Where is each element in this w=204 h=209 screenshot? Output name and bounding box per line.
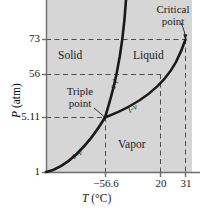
xtick-label-20: 20 <box>147 178 175 190</box>
y-axis-unit: (atm) <box>10 83 22 108</box>
critical-point-label-line1: Critical <box>145 3 201 15</box>
x-axis-unit: (°C) <box>91 192 111 204</box>
y-axis-symbol: P <box>10 111 22 118</box>
ytick-label-73: 73 <box>12 33 40 45</box>
triple-point-label-line2: point <box>52 97 108 109</box>
triple-point-label: Triple point <box>52 85 108 110</box>
ytick-label-56: 56 <box>12 68 40 80</box>
phase-diagram-figure: 73 56 5.11 1 P (atm) −56.6 20 31 T (°C) … <box>0 0 204 209</box>
critical-point-label-line2: point <box>145 15 201 27</box>
x-axis-title: T (°C) <box>82 192 111 204</box>
triple-point-label-line1: Triple <box>52 85 108 97</box>
critical-point-label: Critical point <box>145 3 201 28</box>
xtick-label-minus566: −56.6 <box>80 178 132 190</box>
region-label-liquid: Liquid <box>133 49 164 61</box>
xtick-label-31: 31 <box>172 178 200 190</box>
y-axis-unit-spacer <box>10 108 22 111</box>
ytick-label-1: 1 <box>12 166 40 178</box>
y-axis-title: P (atm) <box>10 83 22 118</box>
region-label-solid: Solid <box>58 49 82 61</box>
region-label-vapor: Vapor <box>118 138 145 150</box>
